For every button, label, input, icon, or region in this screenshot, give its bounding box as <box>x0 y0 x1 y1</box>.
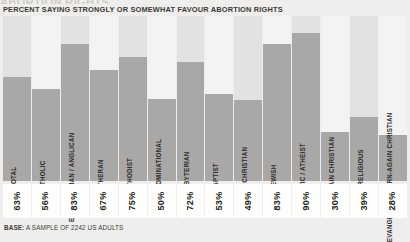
chart-subtitle: PERCENT SAYING STRONGLY OR SOMEWHAT FAVO… <box>3 5 283 14</box>
bar <box>177 62 205 181</box>
chart-column: EPISCOPALIAN / ANGLICAN <box>61 16 89 181</box>
value-label: 53% <box>214 192 224 211</box>
bar <box>234 100 262 181</box>
base-note-text: A SAMPLE OF 2242 US ADULTS <box>24 224 123 231</box>
value-box: 30% <box>321 184 349 218</box>
value-box: 39% <box>350 184 378 218</box>
chart-column: METHODIST <box>119 16 147 181</box>
chart-column: BAPTIST <box>205 16 233 181</box>
value-box: 83% <box>61 184 89 218</box>
clipped-chart-title: ABORTION RIGHTS <box>0 0 170 4</box>
category-label: EVANGELICAL BORN-AGAIN CHRISTIAN <box>387 112 393 242</box>
value-label-row: 63%56%83%67%75%50%72%53%49%83%90%30%39%2… <box>3 184 407 218</box>
bar <box>321 132 349 182</box>
value-box: 50% <box>148 184 176 218</box>
value-label: 90% <box>301 192 311 211</box>
value-label: 56% <box>41 192 51 211</box>
base-note: BASE: A SAMPLE OF 2242 US ADULTS <box>4 224 123 231</box>
value-label: 28% <box>388 192 398 211</box>
value-box: 53% <box>205 184 233 218</box>
value-box: 56% <box>32 184 60 218</box>
bar <box>292 33 320 182</box>
chart-column: OTHER CHRISTIAN <box>234 16 262 181</box>
value-box: 72% <box>177 184 205 218</box>
value-label: 75% <box>128 192 138 211</box>
chart-column: JEWISH <box>263 16 291 181</box>
value-box: 63% <box>3 184 31 218</box>
chart-column: BORN-AGAIN CHRISTIAN <box>321 16 349 181</box>
value-label: 72% <box>185 192 195 211</box>
value-label: 39% <box>359 192 369 211</box>
chart-column: TOTAL <box>3 16 31 181</box>
value-label: 67% <box>99 192 109 211</box>
value-box: 28% <box>379 184 407 218</box>
bar <box>350 117 378 181</box>
chart-column: AGNOSTIC / ATHEIST <box>292 16 320 181</box>
bar-chart-plot-area: TOTALCATHOLICEPISCOPALIAN / ANGLICANLUTH… <box>3 16 407 181</box>
chart-column: VERY RELIGIOUS <box>350 16 378 181</box>
value-box: 67% <box>90 184 118 218</box>
bar <box>3 77 31 181</box>
value-label: 63% <box>12 192 22 211</box>
chart-column: NON-DENOMINATIONAL <box>148 16 176 181</box>
value-box: 49% <box>234 184 262 218</box>
value-box: 75% <box>119 184 147 218</box>
bar <box>205 94 233 181</box>
value-label: 30% <box>330 192 340 211</box>
value-label: 83% <box>70 192 80 211</box>
chart-column: EVANGELICAL BORN-AGAIN CHRISTIAN <box>379 16 407 181</box>
value-box: 90% <box>292 184 320 218</box>
value-label: 50% <box>157 192 167 211</box>
base-note-label: BASE: <box>4 224 24 231</box>
value-label: 83% <box>272 192 282 211</box>
chart-column: PRESBYTERIAN <box>177 16 205 181</box>
chart-column: LUTHERAN <box>90 16 118 181</box>
bar <box>263 44 291 181</box>
value-box: 83% <box>263 184 291 218</box>
value-label: 49% <box>243 192 253 211</box>
chart-column: CATHOLIC <box>32 16 60 181</box>
